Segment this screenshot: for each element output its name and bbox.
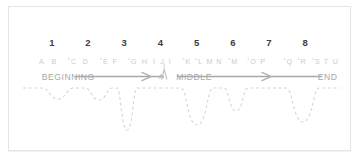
scene-letter-17: P [260,57,265,66]
scene-letter-7: H [142,57,148,66]
scene-letter-21: T [324,57,329,66]
scene-letter-11: K [182,57,190,66]
scene-letter-5: F [112,57,117,66]
scene-letter-4: E [100,57,108,66]
scene-letter-22: U [333,57,339,66]
scene-letter-1: B [51,57,56,66]
scene-letter-2: C [68,57,77,66]
figure-frame: 12345678 ABCDEFGHIJIKLMNMOPQRSTU BEGINNI… [8,6,351,151]
scene-letter-18: Q [283,57,292,66]
scene-letter-20: S [312,57,320,66]
stage-label-end: END [318,72,338,82]
scene-letter-16: O [247,57,256,66]
number-label-3: 3 [122,37,127,48]
scene-letter-10: I [169,57,171,66]
scene-letter-9: J [160,57,164,66]
number-label-8: 8 [303,37,308,48]
scene-letter-12: L [195,57,203,66]
scene-letter-19: R [297,57,306,66]
number-label-4: 4 [158,37,163,48]
stage-label-beginning: BEGINNING [42,72,95,82]
number-label-5: 5 [194,37,199,48]
number-label-7: 7 [266,37,271,48]
number-label-2: 2 [85,37,90,48]
apex-marker-label: A [159,72,164,79]
stage-label-middle: MIDDLE [176,72,212,82]
scene-letter-15: M [228,57,238,66]
number-label-6: 6 [230,37,235,48]
scene-letter-14: N [216,57,222,66]
scene-letter-0: A [39,57,44,66]
scene-letter-13: M [206,57,212,66]
scene-letter-6: G [128,57,137,66]
diagram-stage: 12345678 ABCDEFGHIJIKLMNMOPQRSTU BEGINNI… [9,7,352,152]
scene-letter-8: I [153,57,155,66]
scene-letter-3: D [83,57,89,66]
number-label-1: 1 [49,37,54,48]
